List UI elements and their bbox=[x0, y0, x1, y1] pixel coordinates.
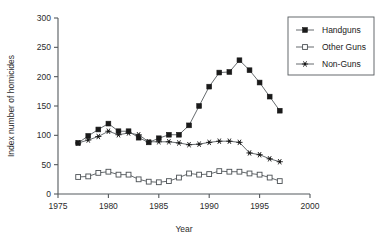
x-tick-label: 1995 bbox=[250, 201, 269, 211]
data-point bbox=[176, 140, 182, 145]
data-point bbox=[227, 70, 232, 75]
x-tick-label: 1985 bbox=[149, 201, 168, 211]
y-tick-label: 150 bbox=[37, 101, 51, 111]
x-tick-label: 1980 bbox=[99, 201, 118, 211]
data-point bbox=[267, 94, 272, 99]
x-axis-ticks: 197519801985199019952000 bbox=[49, 194, 320, 211]
chart-canvas: 050100150200250300 Index number of homic… bbox=[0, 0, 378, 252]
data-point bbox=[156, 136, 161, 141]
plot-area bbox=[75, 58, 283, 185]
data-point bbox=[106, 169, 111, 174]
data-point bbox=[156, 180, 161, 185]
y-tick-label: 100 bbox=[37, 130, 51, 140]
data-point bbox=[196, 141, 202, 146]
data-point bbox=[177, 132, 182, 137]
data-point bbox=[207, 84, 212, 89]
chart-legend: HandgunsOther GunsNon-Guns bbox=[288, 17, 374, 75]
data-point bbox=[105, 129, 111, 134]
y-tick-label: 0 bbox=[46, 189, 51, 199]
data-point bbox=[277, 108, 282, 113]
homicide-index-line-chart: 050100150200250300 Index number of homic… bbox=[0, 0, 378, 252]
data-point bbox=[247, 68, 252, 73]
data-point bbox=[206, 140, 212, 145]
data-point bbox=[166, 139, 172, 144]
x-axis-group: 197519801985199019952000 Year bbox=[49, 194, 320, 234]
data-point bbox=[116, 172, 121, 177]
x-tick-label: 1975 bbox=[49, 201, 68, 211]
data-point bbox=[166, 179, 171, 184]
data-point bbox=[277, 159, 283, 164]
y-axis-ticks: 050100150200250300 bbox=[37, 13, 58, 199]
x-tick-label: 2000 bbox=[301, 201, 320, 211]
y-tick-label: 300 bbox=[37, 13, 51, 23]
data-point bbox=[257, 172, 262, 177]
y-tick-label: 50 bbox=[42, 160, 52, 170]
y-tick-label: 250 bbox=[37, 42, 51, 52]
data-point bbox=[136, 177, 141, 182]
data-point bbox=[187, 123, 192, 128]
legend-marker-icon bbox=[303, 45, 308, 50]
data-point bbox=[226, 139, 232, 144]
data-point bbox=[86, 174, 91, 179]
data-point bbox=[126, 172, 131, 177]
data-point bbox=[247, 171, 252, 176]
data-point bbox=[166, 132, 171, 137]
data-point bbox=[197, 104, 202, 109]
y-tick-label: 200 bbox=[37, 72, 51, 82]
data-point bbox=[187, 171, 192, 176]
data-point bbox=[197, 172, 202, 177]
legend-label: Handguns bbox=[322, 25, 361, 35]
data-point bbox=[217, 169, 222, 174]
data-point bbox=[257, 80, 262, 85]
legend-label: Other Guns bbox=[322, 42, 366, 52]
x-tick-label: 1990 bbox=[200, 201, 219, 211]
data-point bbox=[95, 134, 101, 139]
data-point bbox=[277, 179, 282, 184]
data-point bbox=[257, 152, 263, 157]
data-point bbox=[217, 70, 222, 75]
data-point bbox=[186, 142, 192, 147]
y-axis-group: 050100150200250300 Index number of homic… bbox=[6, 13, 58, 199]
data-point bbox=[207, 172, 212, 177]
data-point bbox=[227, 169, 232, 174]
data-point bbox=[116, 129, 121, 134]
data-point bbox=[267, 175, 272, 180]
data-point bbox=[267, 156, 273, 161]
data-point bbox=[76, 175, 81, 180]
legend-label: Non-Guns bbox=[322, 59, 361, 69]
data-point bbox=[177, 175, 182, 180]
data-point bbox=[106, 121, 111, 126]
legend-marker-icon bbox=[303, 28, 308, 33]
series-other-guns bbox=[76, 169, 282, 185]
data-point bbox=[237, 169, 242, 174]
data-point bbox=[96, 127, 101, 132]
x-axis-title: Year bbox=[175, 224, 192, 234]
data-point bbox=[146, 179, 151, 184]
data-point bbox=[216, 139, 222, 144]
data-point bbox=[96, 170, 101, 175]
data-point bbox=[237, 58, 242, 63]
y-axis-title: Index number of homicides bbox=[6, 55, 16, 157]
